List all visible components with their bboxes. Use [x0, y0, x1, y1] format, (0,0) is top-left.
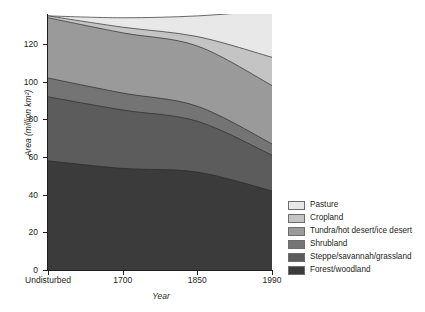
legend: PastureCroplandTundra/hot desert/ice des…: [288, 199, 424, 277]
legend-item[interactable]: Shrubland: [288, 238, 424, 251]
plot-area: [48, 14, 272, 270]
legend-label: Cropland: [310, 214, 343, 222]
legend-swatch: [288, 201, 305, 210]
y-tick-mark: [43, 232, 47, 233]
x-tick-label: 1700: [113, 276, 132, 285]
y-tick-mark: [43, 157, 47, 158]
legend-item[interactable]: Forest/woodland: [288, 264, 424, 277]
x-axis-title: Year: [48, 291, 274, 301]
x-tick-label: Undisturbed: [25, 276, 71, 285]
y-tick-mark: [43, 195, 47, 196]
legend-swatch: [288, 227, 305, 236]
legend-swatch: [288, 240, 305, 249]
y-tick-mark: [43, 44, 47, 45]
legend-item[interactable]: Cropland: [288, 212, 424, 225]
legend-label: Forest/woodland: [310, 266, 371, 274]
x-axis-line: [47, 270, 273, 271]
y-axis-title: Area (million km²): [23, 63, 33, 183]
x-tick-label: 1850: [188, 276, 207, 285]
figure-stacked-area-chart: 020406080100120 Undisturbed170018501990 …: [0, 0, 425, 312]
legend-item[interactable]: Pasture: [288, 199, 424, 212]
legend-swatch: [288, 266, 305, 275]
stacked-area-svg: [48, 14, 272, 270]
legend-item[interactable]: Steppe/savannah/grassland: [288, 251, 424, 264]
x-tick-label: 1990: [263, 276, 282, 285]
legend-item[interactable]: Tundra/hot desert/ice desert: [288, 225, 424, 238]
legend-label: Tundra/hot desert/ice desert: [310, 227, 412, 235]
legend-label: Pasture: [310, 201, 338, 209]
y-tick-label: 120: [0, 40, 38, 49]
y-tick-label: 40: [0, 191, 38, 200]
y-tick-label: 20: [0, 228, 38, 237]
legend-swatch: [288, 214, 305, 223]
legend-swatch: [288, 253, 305, 262]
y-tick-mark: [43, 119, 47, 120]
y-tick-mark: [43, 270, 47, 271]
legend-label: Steppe/savannah/grassland: [310, 253, 412, 261]
legend-label: Shrubland: [310, 240, 347, 248]
y-tick-label: 0: [0, 266, 38, 275]
y-tick-mark: [43, 82, 47, 83]
